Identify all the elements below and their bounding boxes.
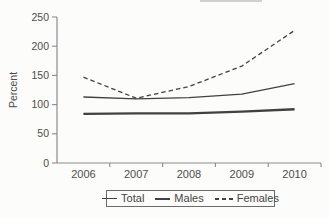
y-tick-label: 50 — [37, 127, 49, 139]
x-tick-label: 2006 — [71, 168, 95, 180]
y-tick-label: 200 — [31, 40, 49, 52]
legend-label-total: Total — [121, 193, 144, 204]
line-chart: 050100150200250Percent200620072008200920… — [0, 0, 329, 218]
legend-item-females: Females — [215, 193, 279, 204]
legend-label-males: Males — [174, 193, 203, 204]
legend-item-males: Males — [155, 193, 203, 204]
series-line-females — [83, 30, 294, 98]
y-tick-label: 0 — [43, 157, 49, 169]
series-line-total — [83, 84, 294, 99]
x-tick-label: 2007 — [124, 168, 148, 180]
figure-page: 050100150200250Percent200620072008200920… — [0, 0, 329, 218]
legend-item-total: Total — [102, 193, 144, 204]
y-tick-label: 150 — [31, 69, 49, 81]
x-tick-label: 2008 — [177, 168, 201, 180]
y-tick-label: 250 — [31, 11, 49, 23]
males-line-swatch — [155, 198, 170, 200]
series-line-males — [83, 109, 294, 114]
total-line-swatch — [102, 198, 117, 199]
x-tick-label: 2009 — [230, 168, 254, 180]
chart-legend: Total Males Females — [106, 190, 275, 207]
y-tick-label: 100 — [31, 98, 49, 110]
females-line-swatch — [215, 198, 233, 200]
y-axis-title: Percent — [7, 72, 19, 108]
legend-label-females: Females — [237, 193, 279, 204]
x-tick-label: 2010 — [282, 168, 306, 180]
